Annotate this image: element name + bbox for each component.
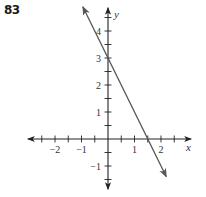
- x-tick-label: −2: [50, 144, 61, 155]
- coordinate-plane: −2−1124321−1xy: [0, 0, 206, 197]
- x-tick-label: −1: [76, 144, 87, 155]
- y-tick-label: 3: [96, 53, 101, 64]
- line-series: [83, 7, 166, 177]
- y-tick-label: 2: [96, 80, 101, 91]
- x-tick-label: 1: [132, 144, 137, 155]
- x-axis-label: x: [185, 141, 191, 153]
- y-axis-label: y: [113, 8, 119, 20]
- tick-labels: −2−1124321−1xy: [50, 8, 191, 172]
- x-tick-label: 2: [159, 144, 164, 155]
- y-tick-label: 1: [96, 107, 101, 118]
- plotted-line: [83, 7, 166, 177]
- y-tick-label: −1: [90, 161, 101, 172]
